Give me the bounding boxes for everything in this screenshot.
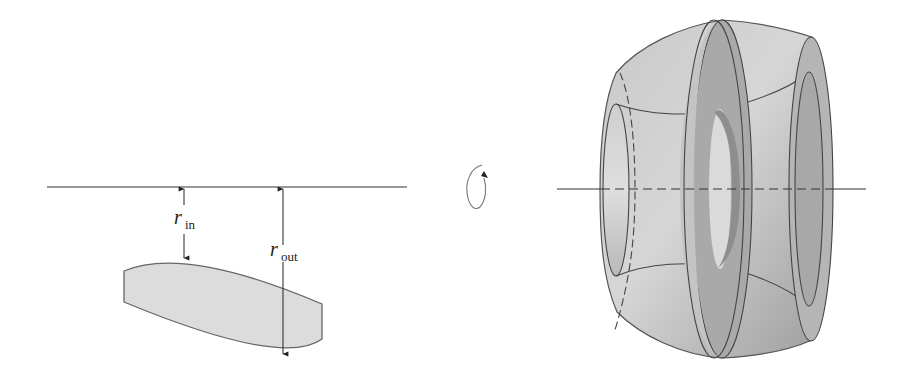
right-panel <box>557 20 866 358</box>
left-inner-opening <box>603 104 629 276</box>
svg-text:r: r <box>174 206 182 228</box>
r-in-label: r in <box>174 206 196 232</box>
cross-section-region <box>124 263 322 348</box>
svg-text:in: in <box>185 217 196 232</box>
svg-text:out: out <box>281 249 298 264</box>
left-panel: r in r out <box>47 187 407 354</box>
rotation-arrow-icon <box>467 165 488 209</box>
svg-text:r: r <box>270 238 278 260</box>
diagram-canvas: r in r out <box>0 0 905 381</box>
r-out-label: r out <box>270 238 298 264</box>
